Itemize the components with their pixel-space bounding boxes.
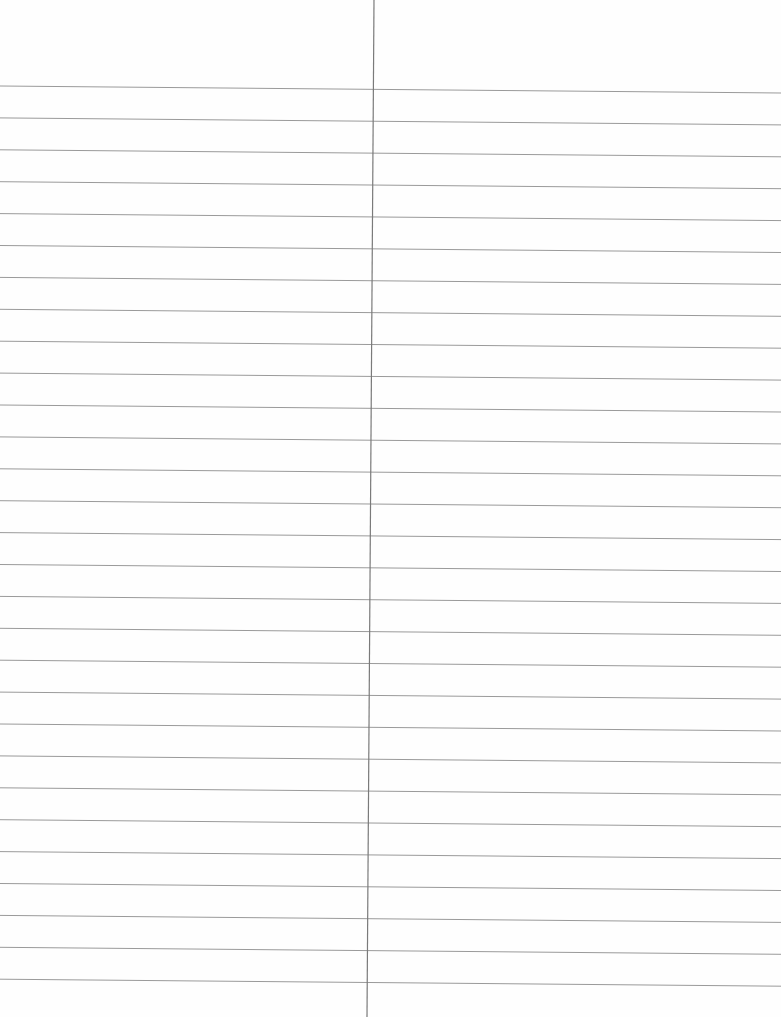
ruled-line: [0, 150, 781, 157]
ruled-line: [0, 501, 781, 508]
ruled-line: [0, 692, 781, 699]
ruled-line: [0, 437, 781, 444]
ruled-lines: [0, 0, 781, 1017]
ruled-line: [0, 118, 781, 125]
ruled-line: [0, 724, 781, 731]
ruled-line: [0, 277, 781, 284]
ruled-line: [0, 373, 781, 380]
ruled-line: [0, 852, 781, 859]
ruled-line: [0, 182, 781, 189]
ruled-line: [0, 756, 781, 763]
ruled-line: [0, 533, 781, 540]
ruled-line: [0, 979, 781, 986]
ruled-line: [0, 788, 781, 795]
ruled-line: [0, 596, 781, 603]
ruled-line: [0, 86, 781, 93]
ruled-line: [0, 628, 781, 635]
ruled-line: [0, 660, 781, 667]
lined-paper-page: [0, 0, 781, 1017]
ruled-line: [0, 915, 781, 922]
column-divider-line: [367, 0, 374, 1017]
ruled-line: [0, 469, 781, 476]
ruled-line: [0, 246, 781, 253]
ruled-line: [0, 947, 781, 954]
ruled-line: [0, 884, 781, 891]
ruled-line: [0, 214, 781, 221]
ruled-line: [0, 565, 781, 572]
ruled-line: [0, 309, 781, 316]
ruled-line: [0, 405, 781, 412]
ruled-line: [0, 820, 781, 827]
ruled-line: [0, 341, 781, 348]
